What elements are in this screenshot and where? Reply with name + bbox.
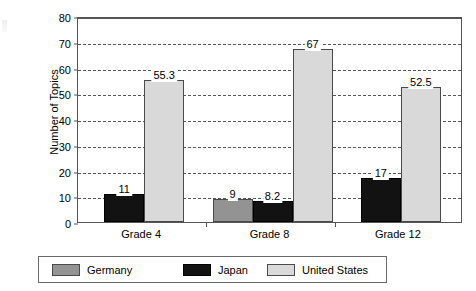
plot-area: 807060504030201001155.398.2671752.5 — [77, 17, 462, 223]
x-axis-category-label: Grade 12 — [375, 228, 421, 240]
bar-germany-grade-8 — [213, 199, 253, 222]
x-axis-tick-mark — [335, 222, 336, 227]
x-axis-tick-mark — [206, 222, 207, 227]
bar-japan-grade-8 — [253, 201, 293, 222]
chart-figure: Number of Topics 807060504030201001155.3… — [0, 0, 476, 291]
bar-value-label: 52.5 — [408, 76, 433, 89]
bar-value-label: 55.3 — [151, 69, 176, 82]
y-axis-tick-mark — [74, 224, 78, 225]
bar-value-label: 9 — [227, 188, 237, 201]
bar-japan-grade-12 — [361, 178, 401, 222]
chart-legend: GermanyJapanUnited States — [38, 256, 387, 283]
bar-us-grade-4 — [144, 80, 184, 222]
legend-item-germany: Germany — [52, 264, 132, 276]
gridline — [78, 18, 461, 19]
scan-artifact — [2, 20, 7, 32]
y-axis-tick-mark — [74, 18, 78, 19]
x-axis-category-label: Grade 8 — [250, 228, 290, 240]
legend-label: Germany — [87, 264, 132, 276]
y-axis-tick-mark — [74, 172, 78, 173]
legend-item-us: United States — [267, 264, 368, 276]
y-axis-tick-mark — [74, 198, 78, 199]
legend-label: Japan — [218, 264, 248, 276]
x-axis-category-label: Grade 4 — [121, 228, 161, 240]
y-axis-tick-mark — [74, 146, 78, 147]
gridline — [78, 70, 461, 71]
bar-value-label: 11 — [116, 183, 131, 196]
y-axis-tick-mark — [74, 43, 78, 44]
bar-value-label: 17 — [373, 167, 389, 180]
legend-item-japan: Japan — [183, 264, 248, 276]
bar-us-grade-8 — [293, 49, 333, 222]
legend-swatch-germany — [52, 264, 80, 276]
bar-value-label: 67 — [304, 38, 320, 51]
legend-swatch-us — [267, 264, 295, 276]
legend-swatch-japan — [183, 264, 211, 276]
y-axis-title: Number of Topics — [48, 2, 64, 222]
bar-japan-grade-4 — [104, 194, 144, 222]
bar-value-label: 8.2 — [263, 190, 282, 203]
bar-us-grade-12 — [401, 87, 441, 222]
y-axis-tick-mark — [74, 121, 78, 122]
gridline — [78, 44, 461, 45]
y-axis-tick-mark — [74, 69, 78, 70]
legend-label: United States — [302, 264, 368, 276]
y-axis-tick-mark — [74, 95, 78, 96]
